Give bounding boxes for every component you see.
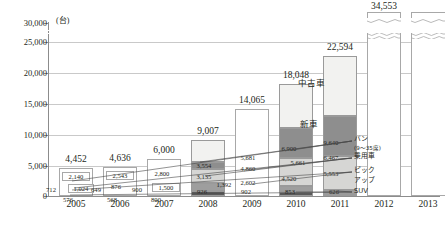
bar-2013-break-mark xyxy=(412,33,445,39)
value-2008-car: 1,392 xyxy=(212,182,236,189)
value-2007-van: 2,800 xyxy=(150,171,174,178)
bar-2013 xyxy=(411,33,445,196)
value-2008-used: 3,554 xyxy=(191,163,217,170)
bar-total-2007: 6,000 xyxy=(129,145,199,155)
value-2011-van: 6,467 xyxy=(318,155,344,162)
legend-item-van: バン xyxy=(354,136,368,144)
y-axis-unit-label: (台) xyxy=(56,14,69,25)
annotation-used-cars: 中古車 xyxy=(298,76,325,88)
segment-2011-used xyxy=(323,56,357,116)
annotation-new-cars: 新車 xyxy=(300,117,318,129)
bar-total-2008: 9,007 xyxy=(173,126,243,136)
ytick-label-30000: 30,000 xyxy=(24,18,47,28)
value-2011-pickup: 626 xyxy=(322,189,346,196)
value-2005-van: 2,140 xyxy=(62,172,90,181)
value-2010-car: 4,520 xyxy=(276,176,302,183)
value-2006-car: 876 xyxy=(106,184,126,191)
segment-2011-van xyxy=(323,116,357,156)
value-2011-used: 9,640 xyxy=(318,140,344,147)
value-2011-car: 5,553 xyxy=(318,171,344,178)
value-2009-van: 4,860 xyxy=(235,166,261,173)
value-2006-van: 2,543 xyxy=(106,171,134,180)
value-2010-pickup: 853 xyxy=(278,189,302,196)
legend-label-van: バン xyxy=(354,135,368,143)
bar-2012-break-mark xyxy=(368,33,400,39)
bar-total-2011: 22,594 xyxy=(305,42,375,52)
ytick-label-20000: 20,000 xyxy=(24,68,47,78)
legend-item-suv: SUV xyxy=(354,188,368,196)
legend-item-pickup-line1: ピック xyxy=(354,167,375,175)
value-2008-pickup: 926 xyxy=(190,189,214,196)
xtick-label-2013: 2013 xyxy=(398,199,445,209)
ytick-label-15000: 15,000 xyxy=(24,99,47,109)
value-2010-used: 6,900 xyxy=(276,146,302,153)
value-2009-used: 5,681 xyxy=(235,155,261,162)
value-2010-van: 5,661 xyxy=(285,160,311,167)
ytick-label-25000: 25,000 xyxy=(24,37,47,47)
value-2006-pickup: 649 xyxy=(86,187,106,194)
bar-total-2012: 34,553 xyxy=(349,1,419,11)
value-2007-pickup: 900 xyxy=(127,187,147,194)
bar-chart: (台) 30,000 25,000 20,000 15,000 10,000 5… xyxy=(0,0,445,227)
bar-2013-stub-break-mark xyxy=(411,18,445,24)
value-2005-pickup: 712 xyxy=(41,187,61,194)
y-axis-tick-labels: 30,000 25,000 20,000 15,000 10,000 5,000… xyxy=(0,0,47,227)
bar-total-2009: 14,065 xyxy=(217,95,287,105)
value-2007-car: 1,500 xyxy=(152,183,180,192)
segment-2010-van xyxy=(279,128,313,158)
value-2009-car: 2,602 xyxy=(235,180,261,187)
value-2008-van: 3,135 xyxy=(191,174,217,181)
value-2009-pickup: 902 xyxy=(234,189,258,196)
legend-item-pickup-line2: アップ xyxy=(354,177,375,185)
legend-sublabel-van: (9～35席) xyxy=(354,145,381,151)
ytick-label-10000: 10,000 xyxy=(24,130,47,140)
legend-item-car: 乗用車 xyxy=(354,153,375,161)
bar-2012-stub-break-mark xyxy=(367,18,401,24)
segment-2008-used xyxy=(191,140,225,162)
y-axis-line xyxy=(48,22,49,196)
